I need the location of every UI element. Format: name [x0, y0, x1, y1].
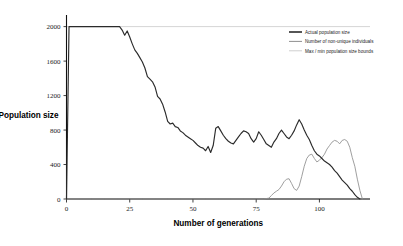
legend-label: Actual population size — [305, 30, 350, 35]
x-tick-label: 75 — [253, 205, 261, 213]
x-tick-label: 100 — [314, 205, 325, 213]
population-size-chart: 04008001200160020000255075100Number of g… — [0, 0, 403, 246]
chart-canvas: 04008001200160020000255075100Number of g… — [0, 0, 403, 246]
series-line-non-unique — [67, 140, 363, 199]
y-tick-label: 2000 — [47, 23, 62, 31]
y-tick-label: 1200 — [47, 92, 62, 100]
y-tick-label: 0 — [57, 196, 61, 204]
y-tick-label: 1600 — [47, 58, 62, 66]
y-tick-label: 800 — [50, 127, 61, 135]
x-tick-label: 50 — [189, 205, 197, 213]
legend-label: Max / min population size bounds — [305, 49, 374, 54]
y-tick-label: 400 — [50, 161, 61, 169]
x-tick-label: 0 — [65, 205, 69, 213]
x-tick-label: 25 — [126, 205, 134, 213]
x-axis-title: Number of generations — [173, 219, 263, 228]
chart-legend: Actual population sizeNumber of non-uniq… — [289, 30, 374, 54]
y-axis-title: Population size — [0, 111, 59, 120]
legend-label: Number of non-unique individuals — [305, 39, 374, 44]
x-axis-ticks: 0255075100 — [65, 199, 325, 213]
